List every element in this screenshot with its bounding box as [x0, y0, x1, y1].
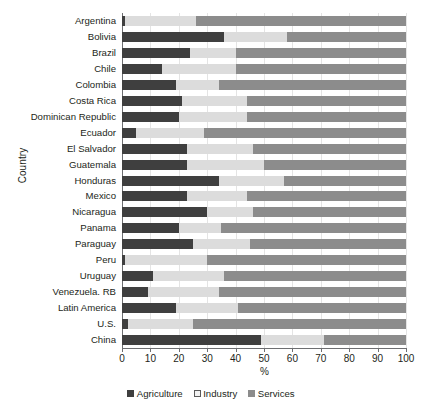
- stacked-bar[interactable]: [122, 128, 406, 138]
- chart-bar-row[interactable]: [122, 236, 406, 253]
- bar-segment-agriculture[interactable]: [122, 176, 219, 186]
- bar-segment-agriculture[interactable]: [122, 239, 193, 249]
- bar-segment-agriculture[interactable]: [122, 287, 148, 297]
- chart-bar-row[interactable]: [122, 141, 406, 158]
- bar-segment-services[interactable]: [247, 191, 406, 201]
- stacked-bar[interactable]: [122, 303, 406, 313]
- chart-bar-row[interactable]: [122, 93, 406, 110]
- bar-segment-industry[interactable]: [261, 335, 323, 345]
- bar-segment-industry[interactable]: [176, 303, 238, 313]
- bar-segment-agriculture[interactable]: [122, 160, 187, 170]
- bar-segment-services[interactable]: [207, 255, 406, 265]
- chart-bar-row[interactable]: [122, 125, 406, 142]
- bar-segment-industry[interactable]: [187, 144, 252, 154]
- bar-segment-agriculture[interactable]: [122, 48, 190, 58]
- chart-bar-row[interactable]: [122, 284, 406, 301]
- chart-bar-row[interactable]: [122, 109, 406, 126]
- bar-segment-services[interactable]: [287, 32, 406, 42]
- chart-bar-row[interactable]: [122, 268, 406, 285]
- bar-segment-industry[interactable]: [179, 112, 247, 122]
- bar-segment-agriculture[interactable]: [122, 335, 261, 345]
- bar-segment-agriculture[interactable]: [122, 96, 182, 106]
- bar-segment-industry[interactable]: [187, 160, 264, 170]
- bar-segment-services[interactable]: [247, 112, 406, 122]
- bar-segment-services[interactable]: [324, 335, 406, 345]
- stacked-bar[interactable]: [122, 239, 406, 249]
- chart-bar-row[interactable]: [122, 45, 406, 62]
- bar-segment-services[interactable]: [221, 223, 406, 233]
- bar-segment-industry[interactable]: [176, 80, 219, 90]
- chart-bar-row[interactable]: [122, 157, 406, 174]
- stacked-bar[interactable]: [122, 223, 406, 233]
- bar-segment-services[interactable]: [224, 271, 406, 281]
- bar-segment-services[interactable]: [193, 319, 406, 329]
- chart-bar-row[interactable]: [122, 252, 406, 269]
- bar-segment-industry[interactable]: [219, 176, 284, 186]
- chart-bar-row[interactable]: [122, 332, 406, 349]
- bar-segment-agriculture[interactable]: [122, 144, 187, 154]
- bar-segment-industry[interactable]: [128, 319, 193, 329]
- bar-segment-services[interactable]: [236, 48, 406, 58]
- bar-segment-industry[interactable]: [148, 287, 219, 297]
- bar-segment-industry[interactable]: [190, 48, 235, 58]
- bar-segment-agriculture[interactable]: [122, 80, 176, 90]
- chart-bar-row[interactable]: [122, 61, 406, 78]
- stacked-bar[interactable]: [122, 48, 406, 58]
- chart-bar-row[interactable]: [122, 204, 406, 221]
- stacked-bar[interactable]: [122, 287, 406, 297]
- chart-bar-row[interactable]: [122, 13, 406, 30]
- stacked-bar[interactable]: [122, 319, 406, 329]
- bar-segment-services[interactable]: [253, 144, 406, 154]
- chart-bar-row[interactable]: [122, 173, 406, 190]
- legend-item-industry[interactable]: Industry: [194, 388, 238, 399]
- stacked-bar[interactable]: [122, 176, 406, 186]
- bar-segment-industry[interactable]: [182, 96, 247, 106]
- bar-segment-services[interactable]: [219, 80, 406, 90]
- legend-item-services[interactable]: Services: [248, 388, 294, 399]
- bar-segment-agriculture[interactable]: [122, 271, 153, 281]
- bar-segment-services[interactable]: [196, 16, 406, 26]
- stacked-bar[interactable]: [122, 207, 406, 217]
- bar-segment-industry[interactable]: [136, 128, 204, 138]
- bar-segment-services[interactable]: [250, 239, 406, 249]
- bar-segment-agriculture[interactable]: [122, 112, 179, 122]
- chart-bar-row[interactable]: [122, 77, 406, 94]
- bar-segment-agriculture[interactable]: [122, 207, 207, 217]
- bar-segment-industry[interactable]: [207, 207, 252, 217]
- bar-segment-industry[interactable]: [187, 191, 247, 201]
- bar-segment-industry[interactable]: [153, 271, 224, 281]
- bar-segment-industry[interactable]: [179, 223, 222, 233]
- bar-segment-industry[interactable]: [193, 239, 250, 249]
- stacked-bar[interactable]: [122, 144, 406, 154]
- stacked-bar[interactable]: [122, 32, 406, 42]
- bar-segment-services[interactable]: [253, 207, 406, 217]
- chart-bar-row[interactable]: [122, 29, 406, 46]
- stacked-bar[interactable]: [122, 255, 406, 265]
- bar-segment-services[interactable]: [284, 176, 406, 186]
- bar-segment-services[interactable]: [204, 128, 406, 138]
- stacked-bar[interactable]: [122, 112, 406, 122]
- stacked-bar[interactable]: [122, 96, 406, 106]
- bar-segment-agriculture[interactable]: [122, 64, 162, 74]
- bar-segment-services[interactable]: [238, 303, 406, 313]
- bar-segment-industry[interactable]: [125, 16, 196, 26]
- legend-item-agriculture[interactable]: Agriculture: [127, 388, 182, 399]
- bar-segment-services[interactable]: [236, 64, 406, 74]
- stacked-bar[interactable]: [122, 16, 406, 26]
- stacked-bar[interactable]: [122, 271, 406, 281]
- bar-segment-services[interactable]: [247, 96, 406, 106]
- stacked-bar[interactable]: [122, 64, 406, 74]
- chart-bar-row[interactable]: [122, 220, 406, 237]
- bar-segment-services[interactable]: [219, 287, 406, 297]
- stacked-bar[interactable]: [122, 160, 406, 170]
- bar-segment-industry[interactable]: [125, 255, 207, 265]
- bar-segment-industry[interactable]: [162, 64, 236, 74]
- bar-segment-services[interactable]: [264, 160, 406, 170]
- stacked-bar[interactable]: [122, 335, 406, 345]
- bar-segment-industry[interactable]: [224, 32, 286, 42]
- stacked-bar[interactable]: [122, 80, 406, 90]
- chart-bar-row[interactable]: [122, 188, 406, 205]
- chart-bar-row[interactable]: [122, 316, 406, 333]
- bar-segment-agriculture[interactable]: [122, 191, 187, 201]
- bar-segment-agriculture[interactable]: [122, 128, 136, 138]
